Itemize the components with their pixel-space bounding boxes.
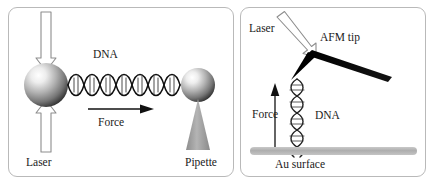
label-pipette: Pipette [185,157,217,169]
label-laser-right: Laser [249,23,275,35]
label-dna-right: DNA [315,110,340,122]
figure-container: DNA Force Laser Pipette Laser AFM tip Fo… [0,0,434,184]
label-dna-left: DNA [93,49,118,61]
label-laser-left: Laser [26,157,52,169]
label-afm-tip: AFM tip [320,32,360,44]
label-force-left: Force [98,117,124,129]
label-au-surface: Au surface [275,159,325,171]
label-force-right: Force [252,109,278,121]
panel-optical-tweezers [8,7,234,177]
